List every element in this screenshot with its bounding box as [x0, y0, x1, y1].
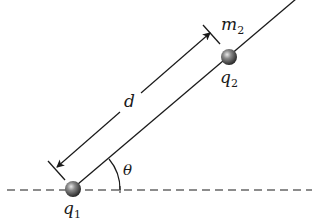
- distance-label: d: [124, 91, 135, 111]
- charge1-label: q1: [63, 198, 81, 221]
- dimension-tick-start: [48, 161, 65, 180]
- dimension-arrow-upper: [141, 33, 210, 93]
- dimension-arrow-lower: [57, 112, 120, 167]
- particle-q1: [65, 181, 81, 197]
- angle-label: θ: [123, 161, 132, 179]
- angle-arc: [109, 159, 120, 190]
- mass2-label: m2: [221, 14, 244, 37]
- incline-line: [78, 0, 296, 184]
- particle-q2: [221, 49, 237, 65]
- incline-charges-diagram: d θ q1 q2 m2: [0, 0, 319, 222]
- charge2-label: q2: [220, 67, 238, 90]
- dimension-tick-end: [203, 25, 220, 44]
